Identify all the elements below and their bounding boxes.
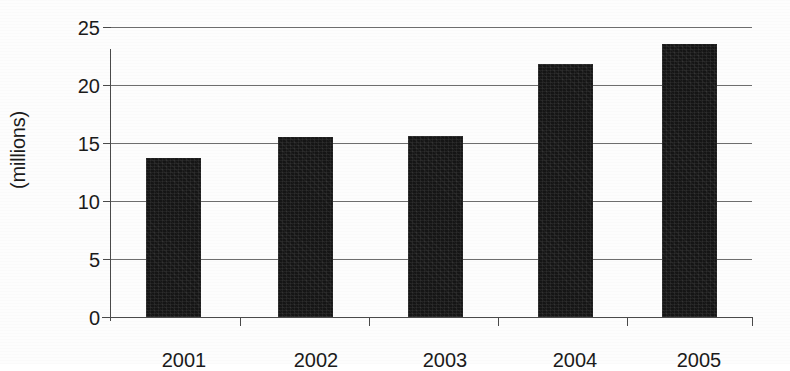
y-tick-mark-15 (103, 143, 111, 144)
y-tick-label-25: 25 (56, 18, 100, 38)
bar-2002 (278, 137, 333, 317)
x-tick-mark-4 (627, 317, 628, 326)
x-tick-mark-2 (369, 317, 370, 326)
x-tick-mark-5 (752, 317, 753, 326)
x-tick-label-2004: 2004 (515, 349, 635, 371)
y-tick-mark-25 (103, 27, 111, 28)
x-tick-mark-3 (498, 317, 499, 326)
y-tick-label-10: 10 (56, 192, 100, 212)
y-tick-label-5: 5 (56, 250, 100, 270)
x-tick-label-2001: 2001 (124, 349, 244, 371)
y-tick-mark-20 (103, 85, 111, 86)
gridline-0 (110, 317, 752, 318)
bar-2005 (662, 44, 717, 317)
x-tick-mark-1 (240, 317, 241, 326)
y-axis-title: (millions) (5, 90, 31, 210)
x-tick-label-2002: 2002 (256, 349, 376, 371)
x-tick-label-2003: 2003 (385, 349, 505, 371)
bar-2001 (146, 158, 201, 317)
y-tick-mark-5 (103, 259, 111, 260)
gridline-25 (110, 27, 752, 28)
y-axis-line (110, 49, 111, 321)
plot-area: 2001 2002 2003 2004 2005 (110, 27, 752, 317)
bar-2004 (538, 64, 593, 317)
y-tick-label-15: 15 (56, 134, 100, 154)
y-tick-mark-10 (103, 201, 111, 202)
gridline-20 (110, 85, 752, 86)
y-tick-mark-0 (103, 317, 111, 318)
x-tick-label-2005: 2005 (639, 349, 759, 371)
y-tick-label-20: 20 (56, 76, 100, 96)
y-tick-label-0: 0 (56, 308, 100, 328)
bar-2003 (408, 136, 463, 317)
